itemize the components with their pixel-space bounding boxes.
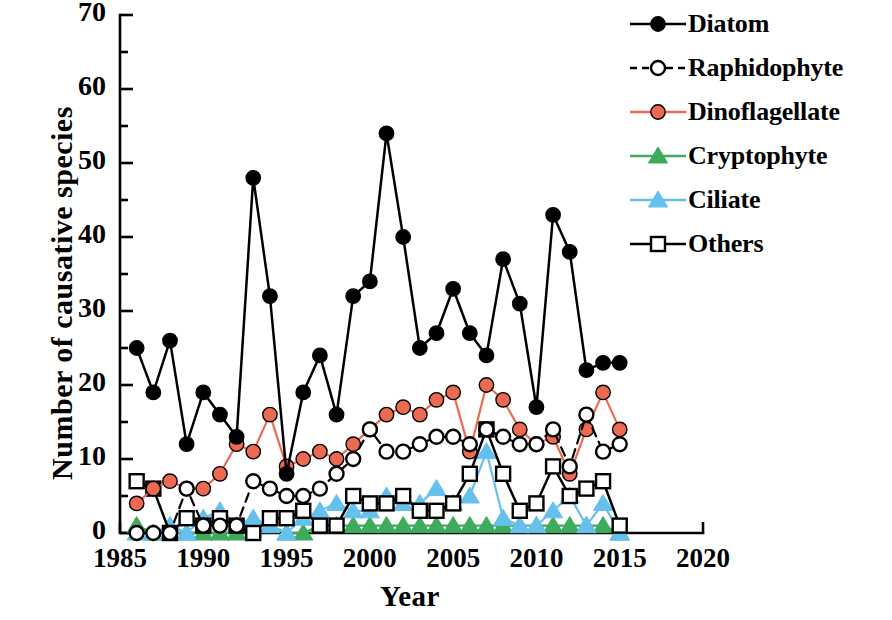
- data-point-marker: [596, 474, 610, 488]
- data-point-marker: [460, 487, 479, 503]
- legend-item-raphidophyte[interactable]: Raphidophyte: [628, 46, 892, 90]
- data-point-marker: [546, 459, 560, 473]
- legend-item-cryptophyte[interactable]: Cryptophyte: [628, 134, 892, 178]
- data-point-marker: [496, 430, 510, 444]
- data-point-marker: [263, 511, 277, 525]
- data-point-marker: [463, 437, 477, 451]
- legend-item-label: Ciliate: [688, 185, 760, 215]
- data-point-marker: [651, 237, 665, 251]
- data-point-marker: [379, 407, 393, 421]
- y-tick-label: 20: [10, 366, 106, 398]
- data-point-marker: [296, 452, 310, 466]
- data-point-marker: [613, 519, 627, 533]
- data-point-marker: [263, 289, 277, 303]
- data-point-marker: [596, 445, 610, 459]
- data-point-marker: [413, 341, 427, 355]
- line-filled-circle-red-icon: [628, 97, 688, 127]
- data-point-marker: [329, 452, 343, 466]
- legend-item-label: Cryptophyte: [688, 141, 827, 171]
- chart-legend: DiatomRaphidophyteDinoflagellateCryptoph…: [628, 2, 892, 266]
- data-point-marker: [196, 481, 210, 495]
- data-point-marker: [613, 437, 627, 451]
- dashed-line-open-circle-icon: [628, 53, 688, 83]
- data-point-marker: [263, 407, 277, 421]
- data-point-marker: [129, 341, 143, 355]
- data-point-marker: [363, 422, 377, 436]
- data-point-marker: [529, 400, 543, 414]
- data-point-marker: [296, 385, 310, 399]
- data-point-marker: [196, 385, 210, 399]
- data-point-marker: [413, 437, 427, 451]
- data-point-marker: [651, 105, 665, 119]
- legend-item-others[interactable]: Others: [628, 222, 892, 266]
- legend-item-label: Raphidophyte: [688, 53, 843, 83]
- data-point-marker: [130, 474, 144, 488]
- y-tick-label: 50: [10, 144, 106, 176]
- data-point-marker: [296, 504, 310, 518]
- data-point-marker: [396, 400, 410, 414]
- y-tick-label: 30: [10, 292, 106, 324]
- legend-item-dinoflagellate[interactable]: Dinoflagellate: [628, 90, 892, 134]
- data-point-marker: [429, 430, 443, 444]
- data-point-marker: [346, 452, 360, 466]
- data-point-marker: [613, 356, 627, 370]
- data-point-marker: [513, 504, 527, 518]
- data-point-marker: [313, 348, 327, 362]
- line-filled-circle-icon: [628, 9, 688, 39]
- data-point-marker: [651, 61, 665, 75]
- y-tick-label: 0: [10, 514, 106, 546]
- data-point-marker: [230, 519, 244, 533]
- data-point-marker: [413, 504, 427, 518]
- data-point-marker: [579, 482, 593, 496]
- legend-item-label: Diatom: [688, 9, 769, 39]
- data-point-marker: [529, 437, 543, 451]
- data-point-marker: [513, 296, 527, 310]
- legend-item-ciliate[interactable]: Ciliate: [628, 178, 892, 222]
- data-point-marker: [330, 519, 344, 533]
- data-point-marker: [246, 444, 260, 458]
- data-point-marker: [146, 481, 160, 495]
- data-point-marker: [496, 393, 510, 407]
- data-point-marker: [479, 348, 493, 362]
- axis-spine: [120, 15, 703, 533]
- legend-item-label: Dinoflagellate: [688, 97, 840, 127]
- data-point-marker: [363, 274, 377, 288]
- data-point-marker: [429, 393, 443, 407]
- data-point-marker: [494, 509, 513, 525]
- data-point-marker: [651, 17, 665, 31]
- data-point-marker: [446, 282, 460, 296]
- x-tick-label: 2020: [643, 543, 763, 574]
- data-point-marker: [310, 502, 329, 518]
- y-tick-label: 10: [10, 440, 106, 472]
- data-point-marker: [546, 208, 560, 222]
- data-point-marker: [313, 444, 327, 458]
- data-point-marker: [163, 474, 177, 488]
- data-point-marker: [130, 526, 144, 540]
- data-point-marker: [380, 496, 394, 510]
- data-point-marker: [363, 496, 377, 510]
- data-point-marker: [329, 407, 343, 421]
- data-point-marker: [479, 378, 493, 392]
- data-point-marker: [529, 496, 543, 510]
- y-tick-label: 40: [10, 218, 106, 250]
- legend-item-diatom[interactable]: Diatom: [628, 2, 892, 46]
- x-axis-title: Year: [300, 580, 520, 613]
- data-point-marker: [296, 489, 310, 503]
- data-point-marker: [346, 289, 360, 303]
- data-point-marker: [446, 496, 460, 510]
- data-point-marker: [213, 519, 227, 533]
- data-point-marker: [413, 407, 427, 421]
- data-point-marker: [146, 526, 160, 540]
- data-point-marker: [496, 252, 510, 266]
- data-point-marker: [180, 482, 194, 496]
- data-point-marker: [330, 467, 344, 481]
- data-point-marker: [380, 445, 394, 459]
- data-point-marker: [463, 467, 477, 481]
- data-point-marker: [396, 230, 410, 244]
- data-point-marker: [180, 511, 194, 525]
- data-point-marker: [346, 437, 360, 451]
- data-point-marker: [513, 437, 527, 451]
- data-point-marker: [213, 407, 227, 421]
- data-point-marker: [163, 333, 177, 347]
- data-point-marker: [563, 245, 577, 259]
